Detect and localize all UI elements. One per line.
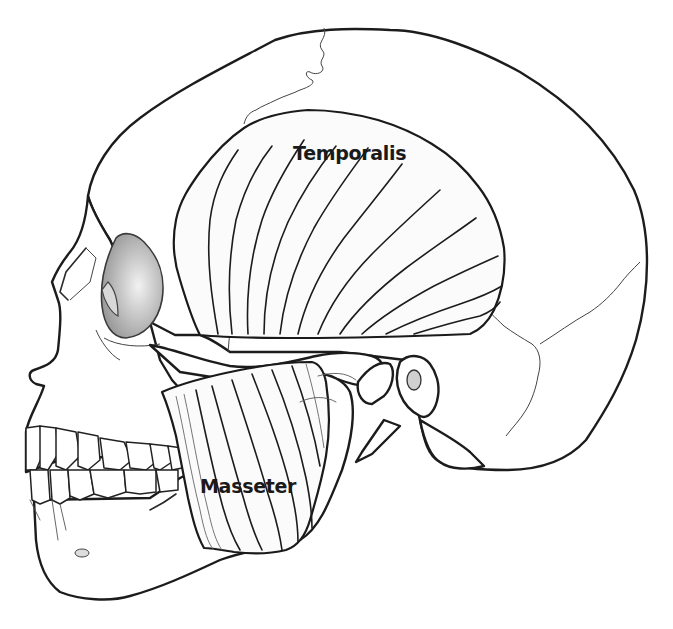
temporalis-label: Temporalis [293,142,406,164]
masseter-label: Masseter [200,475,296,497]
mental-foramen [75,549,89,557]
skull-illustration [0,0,673,629]
styloid-process [356,420,400,462]
